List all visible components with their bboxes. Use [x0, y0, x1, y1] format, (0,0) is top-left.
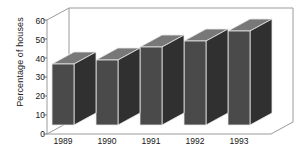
bar-front-face: [96, 60, 118, 125]
bar-1990: [96, 48, 140, 125]
floor-right-edge: [271, 122, 293, 134]
bar-front-face: [184, 41, 206, 125]
bar-side-face: [250, 19, 272, 125]
axis-depth-top: [47, 8, 69, 20]
plot-area: [0, 0, 301, 153]
bar-side-face: [118, 48, 140, 125]
bar-chart-figure: Percentage of houses 60 50 40 30 20 10 0: [0, 0, 301, 153]
bar-1992: [184, 29, 228, 125]
bar-1989: [52, 52, 96, 125]
bar-1993: [228, 19, 272, 125]
bar-side-face: [162, 35, 184, 125]
x-tick-1989: 1989: [43, 137, 83, 146]
x-tick-1990: 1990: [87, 137, 127, 146]
x-tick-1992: 1992: [175, 137, 215, 146]
bar-front-face: [52, 64, 74, 125]
bar-front-face: [228, 31, 250, 125]
bar-side-face: [206, 29, 228, 125]
x-tick-1991: 1991: [131, 137, 171, 146]
bar-front-face: [140, 47, 162, 125]
y-axis-ticks: [43, 20, 47, 134]
bar-1991: [140, 35, 184, 125]
x-tick-1993: 1993: [219, 137, 259, 146]
bar-side-face: [74, 52, 96, 125]
